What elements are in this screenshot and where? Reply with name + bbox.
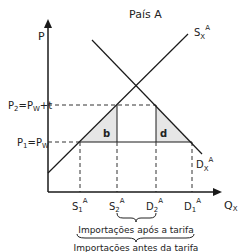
- supply-label: SXA: [194, 24, 210, 41]
- quantity-label-d2: D2A: [146, 197, 163, 214]
- brace-before-tariff: [77, 234, 194, 242]
- supply-curve: [48, 34, 188, 173]
- diagram-title: País A: [129, 8, 162, 21]
- label-imports-after-tariff: Importações após a tarifa: [78, 225, 194, 235]
- area-b-label: b: [103, 128, 110, 139]
- p1-label: P1=PW: [17, 137, 49, 150]
- y-axis-label: P: [38, 30, 45, 43]
- x-axis-arrow-icon: [213, 188, 222, 196]
- y-axis-arrow-icon: [44, 19, 52, 28]
- tariff-diagram: País A P QX P2=PW+t P1=PW SXA DXA b d S1…: [0, 0, 249, 252]
- x-axis-label: QX: [224, 199, 238, 213]
- quantity-label-s2: S2A: [109, 197, 125, 214]
- area-d-label: d: [160, 128, 167, 139]
- demand-label: DXA: [196, 156, 214, 173]
- quantity-label-d1: D1A: [184, 197, 201, 214]
- quantity-label-s1: S1A: [72, 197, 88, 214]
- brace-after-tariff: [117, 213, 156, 222]
- p2-label: P2=PW+t: [8, 100, 52, 113]
- label-imports-before-tariff: Importações antes da tarifa: [74, 243, 199, 252]
